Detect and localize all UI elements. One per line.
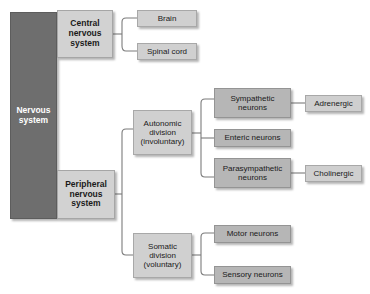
node-brain-label: Brain <box>140 14 194 23</box>
node-peripheral-nervous-system-label: Peripheral nervous system <box>60 180 112 209</box>
node-autonomic-line3: (involuntary) <box>140 137 184 146</box>
node-spinal-cord[interactable]: Spinal cord <box>137 43 197 60</box>
node-peripheral-nervous-system[interactable]: Peripheral nervous system <box>57 170 115 219</box>
node-autonomic-line1: Autonomic <box>144 119 182 128</box>
edge-pns-somatic <box>122 251 133 255</box>
node-enteric-neurons-label: Enteric neurons <box>217 133 288 142</box>
node-parasympathetic-line2: neurons <box>238 173 267 182</box>
edge-cns-spinal <box>122 46 137 51</box>
edge-pns-autonomic <box>122 129 133 133</box>
node-pns-line2: nervous <box>69 189 102 199</box>
node-pns-line3: system <box>71 198 100 208</box>
node-sympathetic-line2: neurons <box>238 103 267 112</box>
node-sympathetic-line1: Sympathetic <box>230 94 274 103</box>
node-somatic-division-label: Somatic division (voluntary) <box>136 242 189 270</box>
node-cns-line3: system <box>70 38 99 48</box>
node-autonomic-division[interactable]: Autonomic division (involuntary) <box>133 110 192 155</box>
node-nervous-system[interactable]: Nervous system <box>10 12 57 219</box>
node-sympathetic-neurons-label: Sympathetic neurons <box>217 94 288 112</box>
node-adrenergic-label: Adrenergic <box>308 99 359 108</box>
edge-somatic-sensory <box>201 271 214 275</box>
edge-auto-sympathetic <box>201 99 214 103</box>
node-somatic-line2: division <box>149 251 176 260</box>
node-cns-line1: Central <box>70 18 99 28</box>
node-pns-line1: Peripheral <box>65 179 107 189</box>
edge-auto-parasympathetic <box>201 173 214 177</box>
node-adrenergic[interactable]: Adrenergic <box>305 95 362 112</box>
node-sensory-neurons[interactable]: Sensory neurons <box>214 266 291 284</box>
node-parasympathetic-neurons-label: Parasympathetic neurons <box>217 164 288 182</box>
node-autonomic-division-label: Autonomic division (involuntary) <box>136 119 189 147</box>
node-central-nervous-system-label: Central nervous system <box>60 19 110 48</box>
node-somatic-division[interactable]: Somatic division (voluntary) <box>133 233 192 278</box>
node-nervous-system-label: Nervous system <box>13 106 54 126</box>
nervous-system-diagram: Nervous system Central nervous system Pe… <box>0 0 370 294</box>
node-motor-neurons-label: Motor neurons <box>217 229 288 238</box>
node-parasympathetic-neurons[interactable]: Parasympathetic neurons <box>214 158 291 188</box>
node-brain[interactable]: Brain <box>137 10 197 27</box>
edge-somatic-motor <box>201 233 214 237</box>
node-somatic-line3: (voluntary) <box>144 260 182 269</box>
node-cholinergic[interactable]: Cholinergic <box>305 165 362 182</box>
node-motor-neurons[interactable]: Motor neurons <box>214 225 291 243</box>
node-enteric-neurons[interactable]: Enteric neurons <box>214 129 291 147</box>
node-autonomic-line2: division <box>149 128 176 137</box>
node-somatic-line1: Somatic <box>148 242 177 251</box>
node-nervous-system-line1: Nervous <box>16 105 50 115</box>
node-parasympathetic-line1: Parasympathetic <box>223 164 283 173</box>
node-nervous-system-line2: system <box>19 115 48 125</box>
node-central-nervous-system[interactable]: Central nervous system <box>57 10 113 58</box>
edge-cns-brain <box>122 18 137 22</box>
node-cns-line2: nervous <box>68 28 101 38</box>
node-sensory-neurons-label: Sensory neurons <box>217 270 288 279</box>
node-cholinergic-label: Cholinergic <box>308 169 359 178</box>
node-sympathetic-neurons[interactable]: Sympathetic neurons <box>214 88 291 118</box>
node-spinal-cord-label: Spinal cord <box>140 47 194 56</box>
